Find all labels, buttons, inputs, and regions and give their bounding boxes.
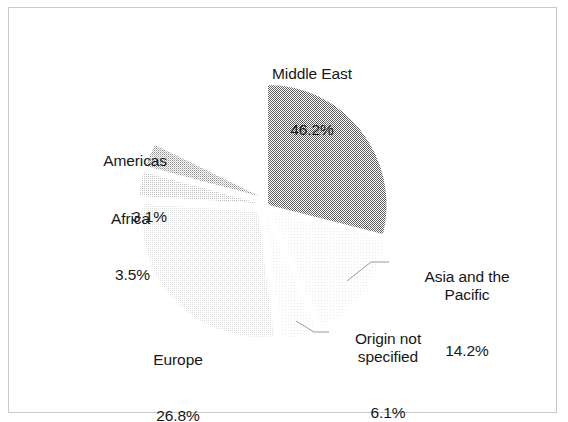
pie-label-europe-name: Europe: [118, 351, 238, 369]
pie-label-middle-east-name: Middle East: [228, 65, 396, 83]
pie-label-middle-east-value: 46.2%: [228, 121, 396, 139]
pie-label-americas-name: Americas: [47, 152, 167, 170]
pie-label-europe-value: 26.8%: [118, 407, 238, 422]
pie-chart-figure: Middle East 46.2% Americas 3.1% Africa 3…: [0, 0, 568, 422]
pie-label-origin-not-specified-name: Origin not specified: [318, 330, 458, 367]
pie-label-africa-value: 3.5%: [44, 266, 150, 284]
pie-label-origin-not-specified: Origin not specified 6.1%: [318, 292, 458, 422]
pie-label-origin-not-specified-value: 6.1%: [318, 404, 458, 422]
pie-label-middle-east: Middle East 46.2%: [228, 27, 396, 177]
pie-label-africa-name: Africa: [44, 210, 150, 228]
pie-label-europe: Europe 26.8%: [118, 313, 238, 422]
pie-label-africa: Africa 3.5%: [44, 172, 150, 322]
